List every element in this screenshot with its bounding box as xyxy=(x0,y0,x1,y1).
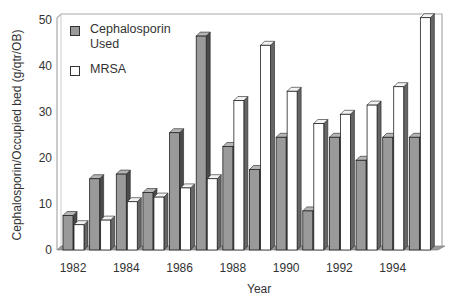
legend-swatch-white-icon xyxy=(70,66,80,76)
bar-mrsa-1983 xyxy=(101,216,115,250)
y-axis-ticks: 01020304050 xyxy=(39,13,53,257)
x-tick-label: 1982 xyxy=(60,261,87,275)
bar-mrsa-1992 xyxy=(340,110,354,250)
x-axis-ticks: 1982198419861988199019921994 xyxy=(60,261,407,275)
bar-mrsa-1995 xyxy=(420,14,434,250)
bar-mrsa-1989 xyxy=(261,41,275,250)
bar-mrsa-1990 xyxy=(287,87,301,250)
x-axis-title-text: Year xyxy=(247,282,271,296)
bar-mrsa-1982 xyxy=(74,221,88,250)
y-tick-label: 30 xyxy=(39,105,53,119)
bar-mrsa-1986 xyxy=(181,184,195,250)
x-tick-label: 1984 xyxy=(113,261,140,275)
x-tick-label: 1994 xyxy=(379,261,406,275)
y-axis-title: Cephalosporin/Occupied bed (g/qtr/OB) xyxy=(10,30,24,241)
y-tick-label: 0 xyxy=(45,243,52,257)
y-tick-label: 20 xyxy=(39,151,53,165)
bar-mrsa-1984 xyxy=(127,198,141,250)
legend-label: MRSA xyxy=(90,62,180,77)
bar-chart: 01020304050 1982198419861988199019921994… xyxy=(0,0,452,305)
legend: Cephalosporin Used MRSA xyxy=(70,22,180,87)
x-tick-label: 1990 xyxy=(273,261,300,275)
legend-item-mrsa: MRSA xyxy=(70,62,180,77)
bar-mrsa-1991 xyxy=(314,120,328,251)
bar-mrsa-1987 xyxy=(207,175,221,250)
y-tick-label: 10 xyxy=(39,197,53,211)
bar-mrsa-1988 xyxy=(234,97,248,251)
bar-mrsa-1994 xyxy=(394,83,408,250)
bar-mrsa-1993 xyxy=(367,101,381,250)
bar-mrsa-1985 xyxy=(154,193,168,250)
x-tick-label: 1986 xyxy=(166,261,193,275)
legend-swatch-gray-icon xyxy=(70,26,80,36)
x-tick-label: 1992 xyxy=(326,261,353,275)
legend-label: Cephalosporin Used xyxy=(90,22,180,52)
legend-item-cephalosporin: Cephalosporin Used xyxy=(70,22,180,52)
y-tick-label: 40 xyxy=(39,59,53,73)
x-tick-label: 1988 xyxy=(220,261,247,275)
y-tick-label: 50 xyxy=(39,13,53,27)
